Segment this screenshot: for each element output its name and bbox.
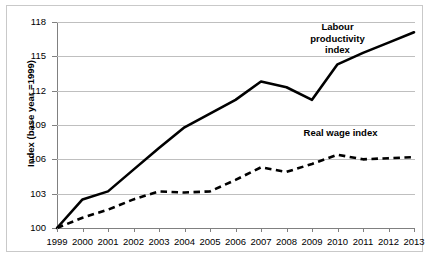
x-tick-mark-1999 (57, 228, 58, 232)
x-tick-mark-2010 (338, 228, 339, 232)
annotation-real-wage-index: Real wage index (286, 127, 396, 139)
x-tick-mark-2001 (108, 228, 109, 232)
x-tick-mark-2006 (236, 228, 237, 232)
y-tick-label-109: 109 (12, 120, 46, 130)
x-tick-mark-2012 (389, 228, 390, 232)
x-tick-mark-2002 (134, 228, 135, 232)
y-tick-label-118: 118 (12, 17, 46, 27)
chart-figure: Index (base year =1999) 1001031061091121… (0, 0, 430, 263)
annotation-labour-productivity-index: Labour productivity index (288, 21, 388, 56)
x-tick-mark-2003 (159, 228, 160, 232)
y-tick-label-115: 115 (12, 51, 46, 61)
x-tick-mark-2008 (287, 228, 288, 232)
y-tick-label-106: 106 (12, 154, 46, 164)
y-tick-label-103: 103 (12, 189, 46, 199)
y-tick-label-112: 112 (12, 86, 46, 96)
x-tick-mark-2005 (210, 228, 211, 232)
plot-area: Labour productivity index Real wage inde… (57, 22, 415, 228)
x-tick-mark-2007 (261, 228, 262, 232)
x-tick-mark-2013 (414, 228, 415, 232)
x-tick-label-2013: 2013 (397, 236, 430, 247)
x-tick-mark-2011 (363, 228, 364, 232)
y-tick-label-100: 100 (12, 223, 46, 233)
x-tick-mark-2000 (83, 228, 84, 232)
x-tick-mark-2009 (312, 228, 313, 232)
line-real-wage-index (57, 155, 414, 228)
x-tick-mark-2004 (185, 228, 186, 232)
